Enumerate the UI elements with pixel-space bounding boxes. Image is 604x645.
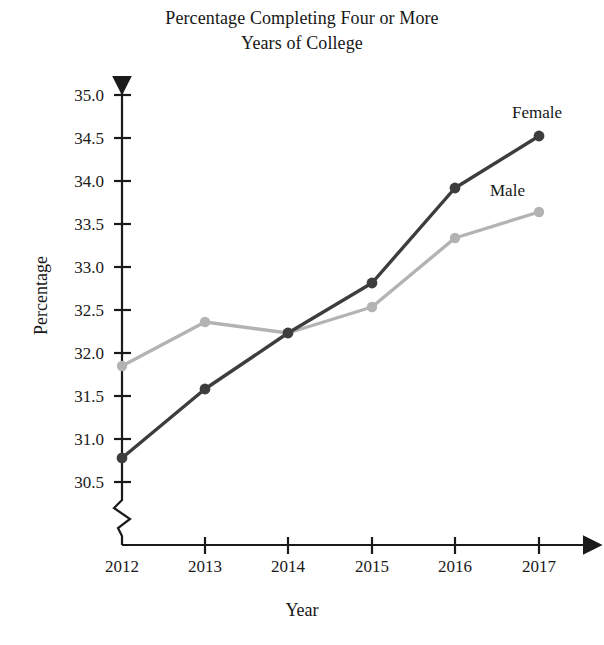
y-tick-label-33-5: 33.5 — [38, 216, 104, 233]
y-tick-label-35-0: 35.0 — [38, 87, 104, 104]
series-female-line — [122, 136, 539, 458]
data-point-male-2017 — [534, 207, 544, 217]
chart-container: Percentage Completing Four or More Years… — [0, 0, 604, 645]
y-tick-label-34-0: 34.0 — [38, 173, 104, 190]
x-tick-label-2013: 2013 — [170, 558, 240, 575]
data-point-male-2015 — [367, 302, 377, 312]
data-point-female-2015 — [367, 278, 378, 289]
x-tick-label-2012: 2012 — [87, 558, 157, 575]
y-tick-label-30-5: 30.5 — [38, 474, 104, 491]
x-tick-label-2017: 2017 — [504, 558, 574, 575]
data-point-male-2012 — [117, 361, 127, 371]
x-axis-title: Year — [0, 600, 604, 621]
series-label-male: Male — [490, 182, 525, 199]
x-tick-label-2014: 2014 — [253, 558, 323, 575]
x-axis — [122, 537, 585, 554]
x-tick-label-2015: 2015 — [337, 558, 407, 575]
data-point-female-2012 — [117, 453, 128, 464]
y-axis — [114, 78, 131, 545]
series-female — [117, 131, 545, 464]
series-label-female: Female — [512, 104, 562, 121]
series-male — [117, 207, 544, 371]
y-tick-label-34-5: 34.5 — [38, 130, 104, 147]
data-point-male-2013 — [200, 317, 210, 327]
series-male-line — [122, 212, 539, 366]
data-point-female-2014 — [283, 328, 294, 339]
data-point-female-2016 — [450, 183, 461, 194]
data-point-female-2013 — [200, 384, 211, 395]
x-tick-label-2016: 2016 — [420, 558, 490, 575]
y-axis-title: Percentage — [31, 236, 52, 356]
y-tick-label-31-5: 31.5 — [38, 388, 104, 405]
data-point-male-2016 — [450, 233, 460, 243]
y-tick-label-31-0: 31.0 — [38, 431, 104, 448]
axis-break-zigzag — [114, 492, 130, 545]
data-point-female-2017 — [534, 131, 545, 142]
